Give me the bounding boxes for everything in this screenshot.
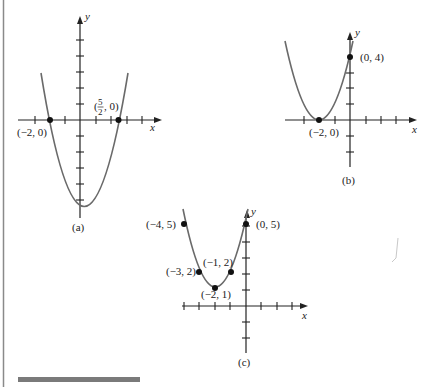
graph-b-y-arrow-icon: [347, 32, 353, 40]
graph-b-point-1: [316, 117, 322, 123]
graph-c-point-4: [228, 269, 234, 275]
graph-c-point-1: [181, 221, 187, 227]
stray-mark: [392, 238, 398, 262]
graph-b-point-2: [347, 54, 353, 60]
graph-c-label-p2: (−3, 2): [166, 265, 196, 278]
graph-a-x-label: x: [149, 121, 155, 133]
graph-c-caption: (c): [238, 356, 251, 369]
graph-a-label-p2-den: 2: [98, 107, 103, 117]
graph-a-label-p2-num: 5: [98, 97, 103, 107]
graph-b-x-label: x: [411, 123, 417, 135]
graph-c: (−4, 5) (−3, 2) (−2, 1) (−1, 2) (0, 5) y…: [146, 205, 308, 369]
graph-a: (−2, 0) ( 5 2 , 0) y x (a): [17, 10, 162, 234]
graph-b-caption: (b): [342, 174, 355, 187]
graph-a-x-arrow-icon: [154, 117, 162, 123]
graph-b-label-p2: (0, 4): [360, 51, 384, 64]
graph-b: (−2, 0) (0, 4) y x (b): [285, 26, 417, 187]
graph-c-label-p3: (−2, 1): [201, 288, 231, 301]
graph-b-y-label: y: [354, 26, 360, 38]
graph-c-point-2: [196, 269, 202, 275]
graph-c-y-label: y: [250, 205, 256, 217]
graph-a-label-p1: (−2, 0): [17, 126, 47, 139]
graph-b-parabola: [285, 41, 353, 120]
graph-c-label-p1: (−4, 5): [146, 218, 176, 231]
graph-a-y-arrow-icon: [77, 16, 83, 24]
graph-a-point-2: [116, 117, 122, 123]
graph-a-caption: (a): [72, 221, 85, 234]
graph-c-label-p4: (−1, 2): [203, 256, 233, 269]
figure-canvas: (−2, 0) ( 5 2 , 0) y x (a): [0, 0, 436, 387]
graph-a-point-1: [47, 117, 53, 123]
graph-c-label-p5: (0, 5): [256, 218, 280, 231]
graph-a-y-label: y: [84, 10, 90, 22]
bottom-rule-bar: [18, 377, 140, 382]
graph-a-parabola: [41, 73, 128, 207]
graph-c-point-5: [243, 221, 249, 227]
graph-a-label-p2-close: , 0): [104, 100, 119, 113]
graph-b-label-p1: (−2, 0): [309, 126, 339, 139]
graph-c-x-label: x: [301, 309, 307, 321]
